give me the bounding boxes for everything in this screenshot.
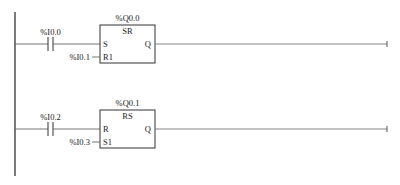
rs-block-output-tag: %Q0.1 (116, 98, 140, 108)
rung-2-contact-label: %I0.2 (40, 112, 61, 122)
contact-no-icon (48, 122, 53, 136)
rs-block-output-q: Q (145, 124, 151, 134)
ladder-diagram: %I0.0 %Q0.0 SR S R1 Q %I0.1 %I0.2 %Q0.1 … (0, 0, 400, 185)
rung-1-reset-tag: %I0.1 (69, 52, 90, 62)
sr-block-input-s: S (103, 39, 108, 49)
rs-block-input-r: R (103, 124, 109, 134)
rung-2: %I0.2 %Q0.1 RS R S1 Q %I0.3 (15, 98, 387, 148)
rung-2-set-tag: %I0.3 (69, 137, 90, 147)
rung-1-contact-label: %I0.0 (40, 27, 61, 37)
sr-block-output-q: Q (145, 39, 151, 49)
rs-block-input-s1: S1 (103, 137, 112, 147)
rs-block-type: RS (122, 111, 133, 121)
sr-block-output-tag: %Q0.0 (116, 13, 140, 23)
sr-block-type: SR (122, 26, 133, 36)
contact-no-icon (48, 37, 53, 51)
sr-block-input-r1: R1 (103, 52, 113, 62)
rung-1: %I0.0 %Q0.0 SR S R1 Q %I0.1 (15, 13, 387, 63)
